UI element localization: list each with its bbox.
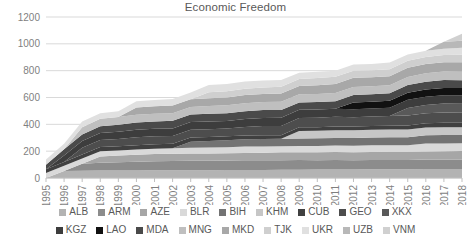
legend-item-blr[interactable]: BLR [180,207,209,217]
legend-swatch-icon [264,227,271,234]
legend-item-kgz[interactable]: KGZ [56,225,87,235]
legend-item-tjk[interactable]: TJK [264,225,292,235]
legend-swatch-icon [179,227,186,234]
x-axis-tick-label: 2001 [150,185,161,205]
x-axis-tick-label: 2003 [186,185,197,205]
x-axis-ticks: 1995199619971998199920002001200220032004… [41,185,468,205]
legend-swatch-icon [136,227,143,234]
legend-item-khm[interactable]: KHM [256,207,288,217]
x-axis-tick-label: 2007 [258,185,269,205]
x-axis-tick-label: 2010 [312,185,323,205]
legend-label: BIH [229,207,246,217]
x-axis-tick-label: 2002 [168,185,179,205]
legend-swatch-icon [56,227,63,234]
legend-label: KHM [266,207,288,217]
chart-container: Economic Freedom 020040060080010001200 1… [0,0,471,250]
y-axis-tick-label: 400 [23,119,40,130]
x-axis-tick-label: 1995 [41,185,52,205]
legend-item-geo[interactable]: GEO [339,207,371,217]
x-axis-tick-label: 2000 [131,185,142,205]
area-series-group [46,34,462,178]
legend-item-lao[interactable]: LAO [96,225,126,235]
legend-item-vnm[interactable]: VNM [383,225,415,235]
x-axis-tick-label: 2018 [457,185,468,205]
x-axis-tick-label: 2008 [276,185,287,205]
legend-row-1: ALBARMAZEBLRBIHKHMCUBGEOXKX [0,203,471,221]
axis-lines [46,178,462,182]
x-axis-tick-label: 2011 [330,185,341,205]
legend-swatch-icon [222,227,229,234]
legend-item-aze[interactable]: AZE [140,207,169,217]
legend-item-mda[interactable]: MDA [136,225,168,235]
legend-swatch-icon [382,209,389,216]
legend-label: UKR [312,225,333,235]
legend-swatch-icon [140,209,147,216]
legend-swatch-icon [96,227,103,234]
legend-label: UZB [353,225,373,235]
legend-label: ARM [108,207,130,217]
legend-label: MDA [146,225,168,235]
x-axis-tick-label: 1999 [113,185,124,205]
legend-swatch-icon [59,209,66,216]
legend-swatch-icon [302,227,309,234]
legend-item-xkx[interactable]: XKX [382,207,412,217]
x-axis-tick-label: 1998 [95,185,106,205]
legend-label: GEO [349,207,371,217]
x-axis-tick-label: 2016 [421,185,432,205]
legend-item-mng[interactable]: MNG [179,225,212,235]
legend-label: ALB [69,207,88,217]
x-axis-tick-label: 2013 [367,185,378,205]
legend-item-cub[interactable]: CUB [298,207,329,217]
legend-swatch-icon [256,209,263,216]
x-axis-tick-label: 2014 [385,185,396,205]
legend-item-ukr[interactable]: UKR [302,225,333,235]
stacked-area-chart: 020040060080010001200 199519961997199819… [0,0,471,205]
legend-label: XKX [392,207,412,217]
legend-item-alb[interactable]: ALB [59,207,88,217]
y-axis-tick-label: 800 [23,65,40,76]
legend-swatch-icon [298,209,305,216]
legend-item-bih[interactable]: BIH [219,207,246,217]
legend-label: AZE [150,207,169,217]
legend-swatch-icon [219,209,226,216]
x-axis-tick-label: 2015 [403,185,414,205]
legend-label: BLR [190,207,209,217]
legend-label: KGZ [66,225,87,235]
y-axis-ticks: 020040060080010001200 [18,12,41,184]
y-axis-tick-label: 0 [34,173,40,184]
y-axis-tick-label: 600 [23,92,40,103]
y-axis-tick-label: 1200 [18,12,41,23]
x-axis-tick-label: 2012 [348,185,359,205]
legend-swatch-icon [383,227,390,234]
legend-label: MNG [189,225,212,235]
legend-label: CUB [308,207,329,217]
x-axis-tick-label: 2017 [439,185,450,205]
legend-row-2: KGZLAOMDAMNGMKDTJKUKRUZBVNM [0,221,471,239]
legend-swatch-icon [339,209,346,216]
legend-label: MKD [232,225,254,235]
legend-swatch-icon [180,209,187,216]
y-axis-tick-label: 1000 [18,38,41,49]
x-axis-tick-label: 2005 [222,185,233,205]
x-axis-tick-label: 1996 [59,185,70,205]
legend-item-arm[interactable]: ARM [98,207,130,217]
legend-label: LAO [106,225,126,235]
legend-swatch-icon [98,209,105,216]
y-axis-tick-label: 200 [23,146,40,157]
legend-item-uzb[interactable]: UZB [343,225,373,235]
legend-label: VNM [393,225,415,235]
x-axis-tick-label: 1997 [77,185,88,205]
x-axis-tick-label: 2006 [240,185,251,205]
legend-item-mkd[interactable]: MKD [222,225,254,235]
x-axis-tick-label: 2004 [204,185,215,205]
chart-legend: ALBARMAZEBLRBIHKHMCUBGEOXKX KGZLAOMDAMNG… [0,203,471,239]
legend-swatch-icon [343,227,350,234]
x-axis-tick-label: 2009 [294,185,305,205]
legend-label: TJK [274,225,292,235]
